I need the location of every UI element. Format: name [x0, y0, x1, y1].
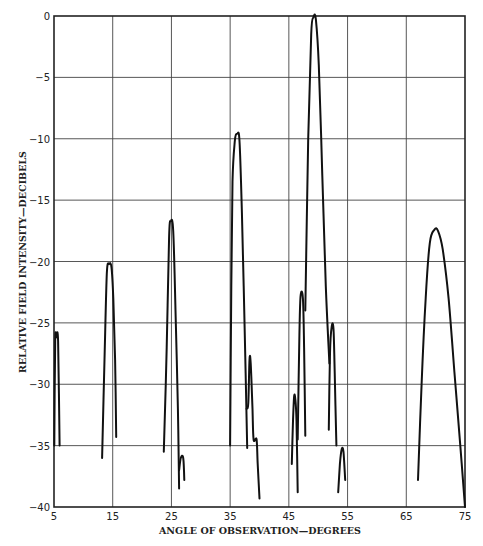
y-tick-label: −25: [29, 318, 50, 329]
y-tick-label: −10: [29, 134, 50, 145]
radiation-pattern-chart: 0−5−10−15−20−25−30−35−40 515253545556575…: [0, 0, 483, 546]
x-axis-ticks: 515253545556575: [51, 511, 472, 522]
x-tick-label: 5: [51, 511, 57, 522]
y-tick-label: −35: [29, 441, 50, 452]
x-tick-label: 45: [282, 511, 295, 522]
y-tick-label: −15: [29, 195, 50, 206]
y-tick-label: −20: [29, 257, 50, 268]
x-tick-label: 15: [106, 511, 119, 522]
y-tick-label: 0: [44, 11, 50, 22]
x-axis-label: ANGLE OF OBSERVATION—DEGREES: [158, 525, 361, 536]
curve-lobe-49: [305, 15, 329, 364]
curve-lobe-5: [54, 332, 59, 445]
curve-lobe-54: [338, 448, 345, 492]
y-tick-label: −40: [29, 502, 50, 513]
x-tick-label: 65: [400, 511, 413, 522]
data-curves: [54, 15, 465, 507]
y-axis-label: RELATIVE FIELD INTENSITY—DECIBELS: [17, 151, 28, 373]
x-tick-label: 55: [341, 511, 354, 522]
curve-lobe-38: [247, 356, 260, 499]
curve-lobe-47: [298, 292, 306, 440]
y-tick-label: −30: [29, 379, 50, 390]
x-tick-label: 25: [165, 511, 178, 522]
x-tick-label: 35: [224, 511, 237, 522]
y-tick-label: −5: [35, 72, 50, 83]
curve-lobe-46a: [292, 395, 298, 493]
x-tick-label: 75: [459, 511, 472, 522]
curve-lobe-70: [418, 228, 465, 507]
y-axis-ticks: 0−5−10−15−20−25−30−35−40: [29, 11, 50, 513]
curve-lobe-36: [230, 133, 247, 449]
curve-lobe-14: [102, 263, 116, 458]
